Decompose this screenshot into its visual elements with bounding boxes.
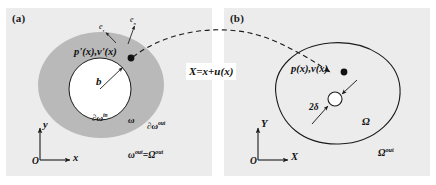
axis-y-label-a: y — [43, 120, 48, 131]
exterior-omega-lower: ω — [128, 150, 135, 160]
tangent-vector-label: eτ — [99, 23, 104, 34]
inner-boundary-superscript: in — [103, 112, 108, 118]
hole-arrow-upper — [342, 80, 357, 94]
outer-boundary-superscript: out — [158, 120, 165, 126]
field-label-b: p(x),v(x) — [291, 64, 328, 75]
axes-a — [40, 128, 70, 160]
exterior-omega-lower-sup: out — [135, 149, 143, 155]
domain-label-a: ω — [128, 116, 135, 125]
mapped-point-b — [341, 69, 348, 76]
normal-vector-label: en — [130, 16, 136, 27]
inner-boundary-label: ∂ωin — [92, 113, 108, 123]
figure-container: (a) (b) p'(x),v'(x) b en eτ ∂ωin ω ∂ωout… — [0, 0, 436, 185]
axis-x-label-b: X — [291, 152, 298, 163]
normal-vector-subscript: n — [134, 21, 136, 26]
axis-origin-a: O — [32, 157, 39, 167]
mapping-equation: X=x+u(x) — [186, 63, 236, 80]
hole-size-label: 2δ — [309, 103, 319, 113]
axes-b — [258, 128, 288, 160]
outer-boundary-label: ∂ωout — [147, 121, 165, 131]
boundary-point-a — [128, 55, 135, 62]
domain-label-b: Ω — [362, 117, 370, 128]
hole-circle-2delta — [328, 92, 342, 106]
axis-x-label-a: x — [73, 153, 78, 164]
figure-vector-layer — [0, 0, 436, 185]
exterior-label-b: Ωout — [378, 147, 394, 158]
panel-b-label: (b) — [230, 12, 244, 24]
field-label-a: p'(x),v'(x) — [74, 47, 117, 58]
outer-boundary-symbol: ∂ω — [147, 121, 158, 131]
panel-a-label: (a) — [12, 12, 25, 24]
exterior-omega-b-sup: out — [385, 146, 393, 153]
axis-y-label-b: Y — [261, 119, 267, 130]
exterior-equality-label-a: ωout=Ωout — [128, 150, 163, 161]
radius-label-b: b — [96, 76, 102, 87]
tangent-vector-subscript: τ — [103, 28, 105, 33]
exterior-omega-upper-sup: out — [155, 149, 163, 155]
inner-boundary-symbol: ∂ω — [92, 113, 103, 123]
axis-origin-b: O — [250, 157, 257, 167]
